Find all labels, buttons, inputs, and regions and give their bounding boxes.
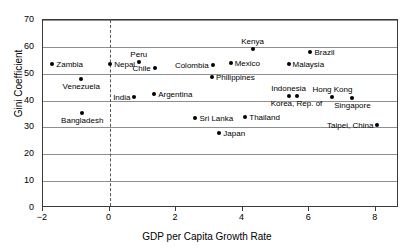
data-point-label: Kenya [241,37,264,46]
data-point[interactable] [108,62,112,66]
scatter-chart-figure: ZambiaVenezuelaBangladeshNepalPeruChileI… [0,0,414,252]
x-tick-mark-4 [242,207,243,211]
data-point[interactable] [308,50,312,54]
x-tick-label--2: −2 [27,212,57,222]
data-point-label: Philippines [216,72,255,81]
data-point[interactable] [375,123,379,127]
x-tick-mark-8 [375,207,376,211]
data-point[interactable] [211,63,215,67]
data-point-label: Bangladesh [61,116,103,125]
zero-reference-line [110,20,111,206]
data-point-label: Argentina [158,90,192,99]
data-point[interactable] [229,61,233,65]
x-tick-mark-6 [308,207,309,211]
data-point[interactable] [251,47,255,51]
data-point[interactable] [330,95,334,99]
x-tick-label-0: 0 [94,212,124,222]
data-point[interactable] [287,62,291,66]
x-tick-label-8: 8 [360,212,390,222]
data-point-label: Taipei, China [327,121,373,130]
x-axis-title: GDP per Capita Growth Rate [0,231,414,242]
data-point[interactable] [243,115,247,119]
data-point-label: Indonesia [271,84,306,93]
data-point-label: Sri Lanka [199,113,233,122]
x-tick-mark-0 [109,207,110,211]
data-point-label: Colombia [175,61,209,70]
data-point-label: Thailand [249,112,280,121]
gridline-y-20 [43,154,397,155]
data-point[interactable] [295,94,299,98]
y-axis-title: Gini Coefficient [13,14,24,154]
data-point-label: Mexico [235,59,260,68]
data-point[interactable] [132,95,136,99]
data-point[interactable] [217,131,221,135]
x-tick-label-4: 4 [227,212,257,222]
data-point-label: Korea, Rep. of [271,99,323,108]
data-point-label: Venezuela [63,82,100,91]
data-point[interactable] [210,75,214,79]
gridline-y-10 [43,181,397,182]
data-point[interactable] [50,62,54,66]
data-point[interactable] [80,111,84,115]
x-tick-label-6: 6 [293,212,323,222]
x-tick-label-2: 2 [160,212,190,222]
data-point[interactable] [193,116,197,120]
gridline-y-60 [43,47,397,48]
data-point-label: Malaysia [293,59,325,68]
data-point-label: Japan [223,128,245,137]
data-point-label: Peru [130,50,147,59]
data-point[interactable] [287,94,291,98]
y-tick-label-0: 0 [0,202,34,212]
data-point-label: Brazil [314,48,334,57]
x-tick-mark--2 [42,207,43,211]
data-point[interactable] [153,66,157,70]
data-point[interactable] [79,77,83,81]
data-point-label: Hong Kong [312,85,352,94]
x-tick-mark-2 [175,207,176,211]
data-point[interactable] [152,92,156,96]
data-point-label: Singapore [334,101,370,110]
plot-area: ZambiaVenezuelaBangladeshNepalPeruChileI… [42,19,398,207]
data-point-label: Zambia [56,59,83,68]
gridline-y-70 [43,20,397,21]
data-point-label: Chile [133,63,151,72]
y-tick-label-10: 10 [0,175,34,185]
data-point-label: India [113,93,130,102]
